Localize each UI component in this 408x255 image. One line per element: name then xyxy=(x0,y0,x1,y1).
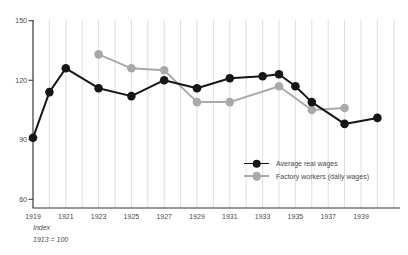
data-point xyxy=(226,98,235,107)
data-point xyxy=(62,64,71,73)
data-point xyxy=(258,72,267,81)
data-point xyxy=(193,84,202,93)
x-tick-label: 1925 xyxy=(124,213,140,220)
data-point xyxy=(291,82,300,91)
axis-unit-note-line1: Index xyxy=(33,222,68,234)
line-dot-marker-icon xyxy=(244,172,269,181)
legend-row-average-real-wages: Average real wages xyxy=(244,159,369,168)
x-tick-label: 1939 xyxy=(353,213,369,220)
y-tick-label: 90 xyxy=(19,136,27,143)
axis-unit-note: Index 1913 = 100 xyxy=(33,222,68,245)
data-point xyxy=(127,92,136,101)
chart-legend: Average real wages Factory workers (dail… xyxy=(244,159,369,181)
line-dot-marker-icon xyxy=(244,159,269,168)
data-point xyxy=(275,70,284,79)
legend-label: Average real wages xyxy=(276,160,338,167)
y-tick-label: 60 xyxy=(19,196,27,203)
x-tick-label: 1931 xyxy=(222,213,238,220)
data-point xyxy=(226,74,235,83)
x-tick-label: 1937 xyxy=(320,213,336,220)
legend-row-factory-workers: Factory workers (daily wages) xyxy=(244,172,369,181)
data-point xyxy=(45,88,54,97)
x-tick-label: 1927 xyxy=(156,213,172,220)
data-point xyxy=(308,106,317,115)
data-point xyxy=(94,50,103,59)
data-point xyxy=(373,114,382,123)
data-point xyxy=(340,104,349,113)
data-point xyxy=(193,98,202,107)
data-point xyxy=(340,120,349,129)
data-point xyxy=(29,134,38,143)
x-tick-label: 1923 xyxy=(91,213,107,220)
y-tick-label: 150 xyxy=(15,17,27,24)
data-point xyxy=(94,84,103,93)
legend-label: Factory workers (daily wages) xyxy=(276,173,369,180)
x-tick-label: 1919 xyxy=(25,213,41,220)
x-tick-label: 1935 xyxy=(288,213,304,220)
wage-index-chart: 6090120150191919211923192519271929193119… xyxy=(0,0,408,255)
data-point xyxy=(160,76,169,85)
data-point xyxy=(127,64,136,73)
data-point xyxy=(275,82,284,91)
data-point xyxy=(160,66,169,75)
x-tick-label: 1921 xyxy=(58,213,74,220)
chart-canvas: 6090120150191919211923192519271929193119… xyxy=(0,0,408,255)
x-tick-label: 1933 xyxy=(255,213,271,220)
data-point xyxy=(308,98,317,107)
x-tick-label: 1929 xyxy=(189,213,205,220)
axis-unit-note-line2: 1913 = 100 xyxy=(33,234,68,246)
y-tick-label: 120 xyxy=(15,77,27,84)
